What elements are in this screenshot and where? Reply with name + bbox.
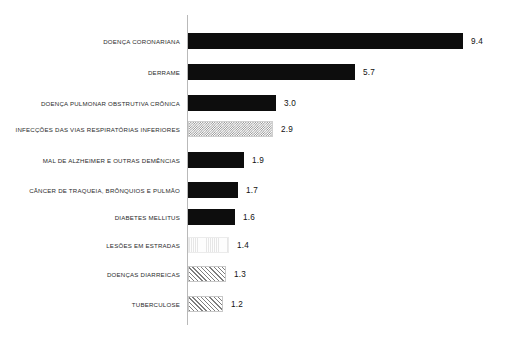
bar-value-label: 1.9 (252, 156, 264, 165)
bar-rect (188, 121, 273, 137)
bar-row: TUBERCULOSE 1.2 (0, 296, 508, 312)
bar-rect (188, 182, 238, 198)
bar-category-label: DERRAME (0, 68, 180, 77)
bar-category-label: INFECÇÕES DAS VIAS RESPIRATÓRIAS INFERIO… (0, 125, 180, 134)
bar-rect (188, 33, 463, 49)
bar-category-label: LESÕES EM ESTRADAS (0, 241, 180, 250)
bar-value-label: 3.0 (284, 99, 296, 108)
bar-category-label: DOENÇA PULMONAR OBSTRUTIVA CRÔNICA (0, 99, 180, 108)
bar-row: DOENÇAS DIARREICAS 1.3 (0, 266, 508, 282)
bar-rect (188, 237, 229, 253)
bar-row: DOENÇA PULMONAR OBSTRUTIVA CRÔNICA 3.0 (0, 95, 508, 111)
bar-rect (188, 296, 223, 312)
bar-row: LESÕES EM ESTRADAS 1.4 (0, 237, 508, 253)
bar-chart: DOENÇA CORONARIANA 9.4 DERRAME 5.7 DOENÇ… (0, 0, 508, 342)
bar-row: MAL DE ALZHEIMER E OUTRAS DEMÊNCIAS 1.9 (0, 152, 508, 168)
bar-category-label: DOENÇA CORONARIANA (0, 37, 180, 46)
bar-value-label: 5.7 (363, 68, 375, 77)
bar-value-label: 1.7 (246, 186, 258, 195)
bar-value-label: 1.6 (243, 213, 255, 222)
bar-value-label: 1.2 (231, 300, 243, 309)
bar-row: DOENÇA CORONARIANA 9.4 (0, 33, 508, 49)
bar-category-label: MAL DE ALZHEIMER E OUTRAS DEMÊNCIAS (0, 156, 180, 165)
bar-category-label: CÂNCER DE TRAQUEIA, BRÔNQUIOS E PULMÃO (0, 186, 180, 195)
bar-row: CÂNCER DE TRAQUEIA, BRÔNQUIOS E PULMÃO 1… (0, 182, 508, 198)
bar-rect (188, 95, 276, 111)
bar-value-label: 1.4 (237, 241, 249, 250)
bar-value-label: 9.4 (471, 37, 483, 46)
bar-rect (188, 152, 244, 168)
bar-rect (188, 266, 226, 282)
bar-rect (188, 64, 355, 80)
bar-row: INFECÇÕES DAS VIAS RESPIRATÓRIAS INFERIO… (0, 121, 508, 137)
bar-value-label: 2.9 (281, 125, 293, 134)
bar-category-label: DIABETES MELLITUS (0, 213, 180, 222)
bar-row: DIABETES MELLITUS 1.6 (0, 209, 508, 225)
bar-category-label: DOENÇAS DIARREICAS (0, 270, 180, 279)
bar-value-label: 1.3 (234, 270, 246, 279)
bar-row: DERRAME 5.7 (0, 64, 508, 80)
bar-category-label: TUBERCULOSE (0, 300, 180, 309)
bar-rect (188, 209, 235, 225)
